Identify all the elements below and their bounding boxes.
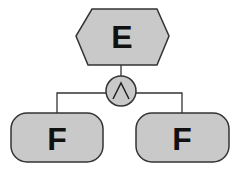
child-node-right-label: F xyxy=(172,121,192,157)
and-gate[interactable] xyxy=(106,76,136,106)
root-node-label: E xyxy=(111,19,132,55)
root-node[interactable]: E xyxy=(76,9,169,65)
child-node-left[interactable]: F xyxy=(11,113,103,162)
and-gate-circle xyxy=(106,76,136,106)
gate-to-right-child-line xyxy=(136,93,182,113)
child-node-right[interactable]: F xyxy=(136,113,229,162)
gate-to-left-child-line xyxy=(57,93,106,113)
and-tree-diagram: E F F xyxy=(0,0,244,170)
child-node-left-label: F xyxy=(47,121,67,157)
